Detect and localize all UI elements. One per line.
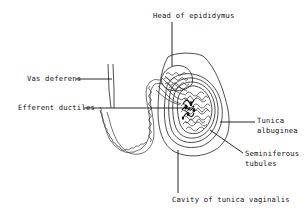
label-vas-deferens: Vas deferens	[27, 74, 81, 83]
leader-seminiferous-tubules	[210, 130, 243, 153]
label-efferent-ductiles: Efferent ductiles	[18, 103, 95, 112]
label-tunica-albuginea-2: albuginea	[257, 126, 298, 135]
label-cavity-tunica-vaginalis: Cavity of tunica vaginalis	[172, 195, 290, 204]
testis-diagram: Head of epididymus Vas deferens Efferent…	[0, 0, 307, 215]
label-tunica-albuginea-1: Tunica	[257, 116, 284, 125]
epididymis-head-coils	[164, 73, 189, 90]
label-head-of-epididymus: Head of epididymus	[153, 11, 235, 20]
label-seminiferous-1: Seminiferous	[245, 149, 299, 158]
label-seminiferous-2: tubules	[245, 159, 277, 168]
seminiferous-tubules	[181, 92, 210, 131]
vas-deferens	[108, 64, 114, 108]
